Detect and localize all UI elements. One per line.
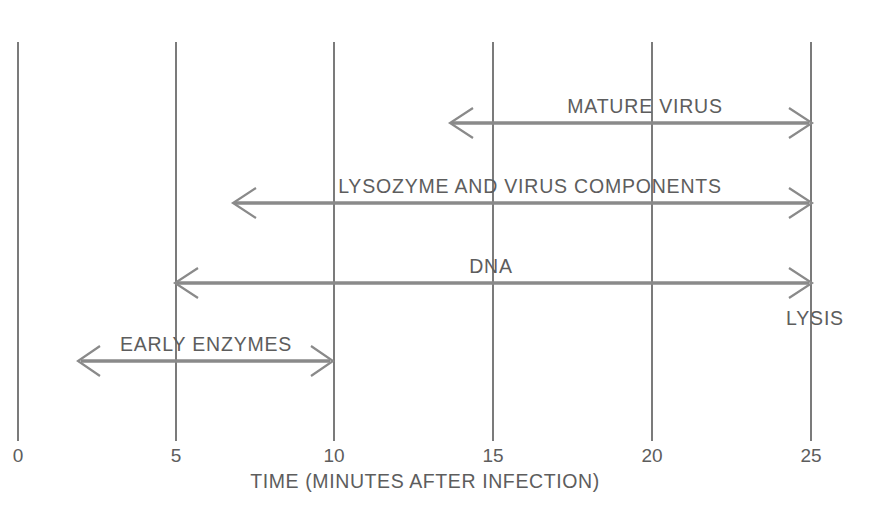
x-tick-label-5: 5 [171, 445, 182, 466]
x-tick-label-25: 25 [800, 445, 821, 466]
timeline-bar-label-lysozyme: LYSOZYME AND VIRUS COMPONENTS [338, 175, 722, 197]
timeline-bar-label-dna: DNA [469, 255, 513, 277]
x-tick-label-15: 15 [482, 445, 503, 466]
virus-replication-timeline-figure: MATURE VIRUS LYSOZYME AND VIRUS COMPONEN… [0, 0, 873, 520]
timeline-bar-label-early-enzymes: EARLY ENZYMES [120, 333, 292, 355]
x-tick-label-10: 10 [323, 445, 344, 466]
x-axis-tick-labels: 0 5 10 15 20 25 [13, 445, 822, 466]
timeline-bar-label-mature-virus: MATURE VIRUS [567, 95, 723, 117]
lysis-annotation-label: LYSIS [786, 307, 844, 329]
timeline-bar-early-enzymes: EARLY ENZYMES [78, 333, 333, 376]
x-tick-label-20: 20 [641, 445, 662, 466]
timeline-chart-canvas: MATURE VIRUS LYSOZYME AND VIRUS COMPONEN… [0, 0, 873, 520]
x-axis-title: TIME (MINUTES AFTER INFECTION) [250, 470, 600, 492]
timeline-bar-lysozyme: LYSOZYME AND VIRUS COMPONENTS [233, 175, 812, 218]
x-tick-label-0: 0 [13, 445, 24, 466]
timeline-bar-mature-virus: MATURE VIRUS [450, 95, 812, 138]
